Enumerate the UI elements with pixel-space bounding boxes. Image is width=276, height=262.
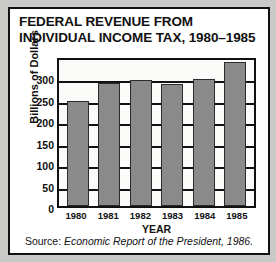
y-axis-tick-label: 250 xyxy=(12,96,54,108)
bar xyxy=(67,101,89,206)
bar-series xyxy=(59,60,254,206)
chart-title: FEDERAL REVENUE FROM INDIVIDUAL INCOME T… xyxy=(19,14,265,45)
y-axis-tick-label: 300 xyxy=(12,74,54,86)
x-axis-tick-label: 1982 xyxy=(129,210,151,224)
source-prefix: Source: xyxy=(25,235,61,247)
y-axis-tick-label: 150 xyxy=(12,139,54,151)
y-axis-tick-label: 200 xyxy=(12,117,54,129)
bar xyxy=(224,62,246,206)
y-axis-tick-label: 0 xyxy=(12,203,54,215)
y-axis-tick-label: 50 xyxy=(12,182,54,194)
source-year: 1986. xyxy=(227,235,253,247)
y-axis-ticks: 050100150200250300 xyxy=(10,58,54,210)
plot-area xyxy=(57,58,256,208)
chart-card: FEDERAL REVENUE FROM INDIVIDUAL INCOME T… xyxy=(8,7,270,255)
source-publication: Economic Report of the President, xyxy=(64,235,224,247)
x-axis-ticks: 198019811982198319841985 xyxy=(57,210,256,224)
x-axis-tick-label: 1984 xyxy=(194,210,216,224)
chart-title-line2: INDIVIDUAL INCOME TAX, 1980–1985 xyxy=(19,30,265,46)
chart-title-line1: FEDERAL REVENUE FROM xyxy=(19,14,265,30)
x-axis-tick-label: 1981 xyxy=(97,210,119,224)
y-axis-tick-label: 100 xyxy=(12,160,54,172)
bar xyxy=(98,83,120,206)
bar xyxy=(161,84,183,206)
x-axis-label: YEAR xyxy=(57,223,256,235)
x-axis-tick-label: 1983 xyxy=(162,210,184,224)
x-axis-tick-label: 1980 xyxy=(65,210,87,224)
bar xyxy=(130,80,152,206)
source-caption: Source: Economic Report of the President… xyxy=(16,235,262,247)
bar xyxy=(193,79,215,206)
x-axis-tick-label: 1985 xyxy=(226,210,248,224)
